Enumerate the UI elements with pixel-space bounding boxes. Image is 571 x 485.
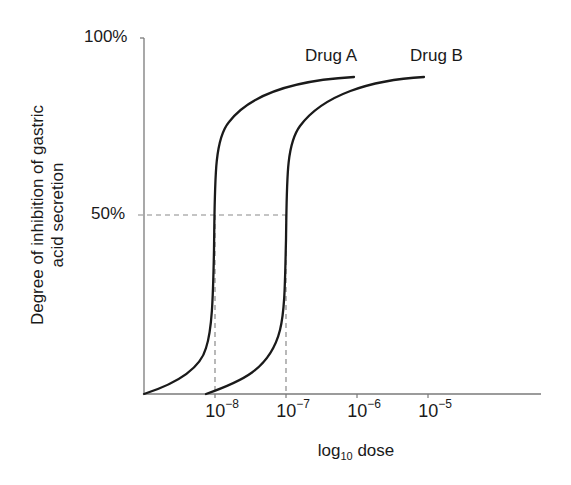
y-axis-label-line-2: acid secretion (48, 105, 68, 325)
y-tick-label-100: 100% (84, 27, 127, 47)
x-tick-label-1e-6: 10−6 (347, 397, 381, 422)
drug-a-curve (144, 77, 354, 394)
y-axis-label: Degree of inhibition of gastric acid sec… (28, 105, 68, 325)
x-axis-label: log10 dose (318, 441, 395, 462)
legend-drug-b: Drug B (410, 46, 463, 66)
y-tick-label-50: 50% (91, 204, 125, 224)
drug-b-curve (206, 77, 424, 394)
y-axis-label-line-1: Degree of inhibition of gastric (28, 105, 48, 325)
x-tick-label-1e-5: 10−5 (418, 397, 452, 422)
x-tick-label-1e-8: 10−8 (205, 397, 239, 422)
legend-drug-a: Drug A (305, 46, 357, 66)
x-tick-label-1e-7: 10−7 (276, 397, 310, 422)
